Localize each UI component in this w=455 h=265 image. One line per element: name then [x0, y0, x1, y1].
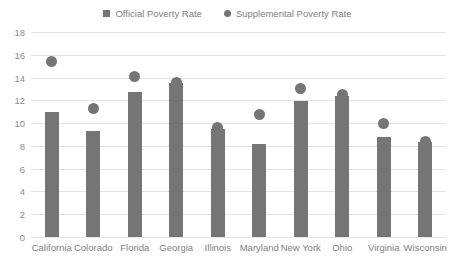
x-axis-tick-label: New York: [281, 242, 321, 253]
circle-marker-icon: [224, 10, 231, 17]
dot-supplemental-poverty-rate: [171, 77, 182, 88]
category-group: [114, 32, 156, 237]
x-axis-tick-label: Colorado: [74, 242, 113, 253]
category-group: [322, 32, 364, 237]
series-layer: [31, 32, 446, 237]
y-axis-tick-label: 4: [20, 186, 25, 197]
chart-legend: Official Poverty Rate Supplemental Pover…: [0, 8, 455, 19]
bar-official-poverty-rate: [418, 142, 432, 237]
gridline: [31, 237, 446, 238]
dot-supplemental-poverty-rate: [88, 103, 99, 114]
bar-official-poverty-rate: [294, 101, 308, 237]
poverty-rate-chart: Official Poverty Rate Supplemental Pover…: [0, 0, 455, 265]
bar-official-poverty-rate: [211, 129, 225, 237]
y-axis-tick-label: 10: [14, 118, 25, 129]
dot-supplemental-poverty-rate: [254, 109, 265, 120]
y-axis-tick-label: 14: [14, 72, 25, 83]
category-group: [239, 32, 281, 237]
x-axis-tick-label: Georgia: [159, 242, 193, 253]
bar-official-poverty-rate: [86, 131, 100, 237]
category-group: [197, 32, 239, 237]
legend-item-official: Official Poverty Rate: [103, 8, 201, 19]
x-axis-tick-label: Florida: [120, 242, 149, 253]
category-group: [156, 32, 198, 237]
dot-supplemental-poverty-rate: [378, 118, 389, 129]
category-group: [405, 32, 447, 237]
legend-label-official: Official Poverty Rate: [115, 8, 201, 19]
y-axis-tick-label: 16: [14, 49, 25, 60]
bar-official-poverty-rate: [335, 96, 349, 237]
category-group: [363, 32, 405, 237]
y-axis-tick-label: 2: [20, 209, 25, 220]
category-group: [73, 32, 115, 237]
y-axis-tick-label: 18: [14, 27, 25, 38]
square-marker-icon: [103, 10, 110, 17]
category-group: [31, 32, 73, 237]
x-axis: CaliforniaColoradoFloridaGeorgiaIllinois…: [31, 239, 446, 259]
legend-item-supplemental: Supplemental Poverty Rate: [224, 8, 352, 19]
y-axis-tick-label: 8: [20, 140, 25, 151]
x-axis-tick-label: California: [32, 242, 72, 253]
legend-label-supplemental: Supplemental Poverty Rate: [236, 8, 352, 19]
bar-official-poverty-rate: [128, 92, 142, 237]
y-axis-tick-label: 0: [20, 232, 25, 243]
x-axis-tick-label: Virginia: [368, 242, 400, 253]
dot-supplemental-poverty-rate: [129, 71, 140, 82]
x-axis-tick-label: Maryland: [240, 242, 279, 253]
dot-supplemental-poverty-rate: [420, 136, 431, 147]
y-axis-tick-label: 12: [14, 95, 25, 106]
dot-supplemental-poverty-rate: [337, 89, 348, 100]
bar-official-poverty-rate: [252, 144, 266, 237]
x-axis-tick-label: Wisconsin: [404, 242, 447, 253]
dot-supplemental-poverty-rate: [46, 56, 57, 67]
plot-area: 024681012141618: [31, 32, 446, 237]
bar-official-poverty-rate: [377, 137, 391, 237]
bar-official-poverty-rate: [45, 112, 59, 237]
x-axis-tick-label: Ohio: [332, 242, 352, 253]
y-axis-tick-label: 6: [20, 163, 25, 174]
x-axis-tick-label: Illinois: [205, 242, 231, 253]
dot-supplemental-poverty-rate: [295, 83, 306, 94]
category-group: [280, 32, 322, 237]
bar-official-poverty-rate: [169, 83, 183, 237]
